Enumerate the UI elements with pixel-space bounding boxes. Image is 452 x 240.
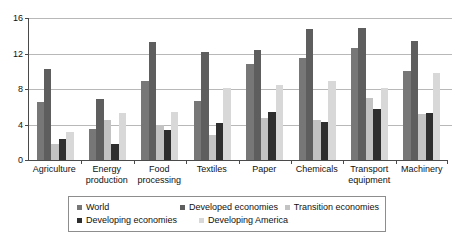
bar[interactable] xyxy=(209,135,216,160)
bar[interactable] xyxy=(313,120,320,160)
bar[interactable] xyxy=(37,102,44,160)
bar-group xyxy=(81,18,133,160)
bar[interactable] xyxy=(119,113,126,160)
legend-item-developing-economies[interactable]: Developing economies xyxy=(77,216,199,225)
x-tick-label: Paper xyxy=(238,164,291,185)
legend-row: World Developed economies Transition eco… xyxy=(77,201,379,214)
legend-item-developed-economies[interactable]: Developed economies xyxy=(180,203,285,212)
legend-item-world[interactable]: World xyxy=(77,203,180,212)
y-tick-label: 0 xyxy=(18,156,23,165)
bar-groups xyxy=(29,18,448,160)
x-tick-label-line: Agriculture xyxy=(28,164,81,175)
y-tickmark xyxy=(25,160,29,161)
bar[interactable] xyxy=(201,52,208,160)
bar[interactable] xyxy=(276,85,283,160)
x-tick-label: Textiles xyxy=(186,164,239,185)
y-tick-label: 16 xyxy=(13,14,23,23)
y-axis-labels: 0481216 xyxy=(0,0,28,170)
bar[interactable] xyxy=(299,58,306,160)
bar[interactable] xyxy=(426,113,433,160)
bar[interactable] xyxy=(366,98,373,160)
bar-group xyxy=(239,18,291,160)
plot-area xyxy=(28,18,448,161)
bar[interactable] xyxy=(306,29,313,160)
bar[interactable] xyxy=(89,129,96,160)
bar[interactable] xyxy=(254,50,261,160)
bar[interactable] xyxy=(358,28,365,160)
x-tick-label-line: production xyxy=(81,175,134,186)
bar-chart: 0481216 AgricultureEnergyproductionFoodp… xyxy=(0,0,452,240)
x-tick-label-line: Textiles xyxy=(186,164,239,175)
x-tick-label: Transportequipment xyxy=(343,164,396,185)
bar[interactable] xyxy=(59,139,66,160)
x-tick-label-line: Machinery xyxy=(396,164,449,175)
x-tick-label-line: Paper xyxy=(238,164,291,175)
legend-item-transition-economies[interactable]: Transition economies xyxy=(285,203,379,212)
bar[interactable] xyxy=(403,71,410,160)
bar[interactable] xyxy=(268,112,275,160)
bar[interactable] xyxy=(194,101,201,160)
x-tick-label: Agriculture xyxy=(28,164,81,185)
y-tick-label: 8 xyxy=(18,85,23,94)
legend-label: World xyxy=(86,203,109,212)
bar-group xyxy=(396,18,448,160)
x-tick-label-line: Energy xyxy=(81,164,134,175)
legend-label: Transition economies xyxy=(294,203,379,212)
legend-label: Developing America xyxy=(208,216,288,225)
bar[interactable] xyxy=(418,114,425,160)
bar-group xyxy=(29,18,81,160)
x-tick-label-line: processing xyxy=(133,175,186,186)
chart-legend: World Developed economies Transition eco… xyxy=(68,196,386,232)
x-tick-label-line: Transport xyxy=(343,164,396,175)
legend-swatch-icon xyxy=(77,218,82,223)
bar[interactable] xyxy=(51,144,58,160)
legend-label: Developing economies xyxy=(86,216,177,225)
y-tick-label: 4 xyxy=(18,120,23,129)
bar[interactable] xyxy=(96,99,103,160)
bar-group xyxy=(134,18,186,160)
bar[interactable] xyxy=(433,73,440,160)
x-tick-label-line: Chemicals xyxy=(291,164,344,175)
bar[interactable] xyxy=(149,42,156,160)
y-tick-label: 12 xyxy=(13,49,23,58)
x-tick-label: Chemicals xyxy=(291,164,344,185)
plot-wrapper: 0481216 AgricultureEnergyproductionFoodp… xyxy=(0,0,452,170)
x-tick-label: Energyproduction xyxy=(81,164,134,185)
bar[interactable] xyxy=(216,123,223,160)
bar[interactable] xyxy=(351,48,358,160)
x-tick-label-line: Food xyxy=(133,164,186,175)
bar[interactable] xyxy=(328,81,335,160)
bar[interactable] xyxy=(164,130,171,160)
bar[interactable] xyxy=(44,69,51,160)
bar[interactable] xyxy=(381,88,388,160)
bar[interactable] xyxy=(66,132,73,160)
bar-group xyxy=(291,18,343,160)
bar[interactable] xyxy=(104,120,111,160)
legend-swatch-icon xyxy=(285,205,290,210)
bar[interactable] xyxy=(321,122,328,160)
x-axis-labels: AgricultureEnergyproductionFoodprocessin… xyxy=(28,164,448,185)
legend-swatch-icon xyxy=(199,218,204,223)
bar[interactable] xyxy=(261,118,268,160)
bar[interactable] xyxy=(141,81,148,160)
bar[interactable] xyxy=(111,144,118,160)
legend-row: Developing economies Developing America xyxy=(77,214,379,227)
bar[interactable] xyxy=(223,88,230,160)
bar-group xyxy=(343,18,395,160)
x-tick-label-line: equipment xyxy=(343,175,396,186)
bar-group xyxy=(186,18,238,160)
legend-item-developing-america[interactable]: Developing America xyxy=(199,216,323,225)
x-tick-label: Foodprocessing xyxy=(133,164,186,185)
bar[interactable] xyxy=(246,64,253,160)
legend-label: Developed economies xyxy=(189,203,278,212)
bar[interactable] xyxy=(373,109,380,160)
x-tick-label: Machinery xyxy=(396,164,449,185)
bar[interactable] xyxy=(171,112,178,160)
bar[interactable] xyxy=(156,125,163,161)
bar[interactable] xyxy=(411,41,418,160)
legend-swatch-icon xyxy=(180,205,185,210)
legend-swatch-icon xyxy=(77,205,82,210)
